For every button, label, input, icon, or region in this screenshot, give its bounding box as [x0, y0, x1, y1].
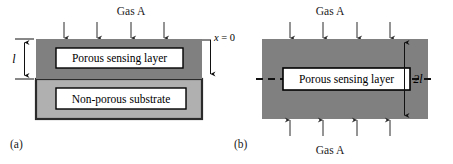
- panel-b-thickness-label: 2l: [413, 72, 423, 86]
- panel-b-sensing-label: Porous sensing layer: [299, 73, 394, 86]
- panel-a-gas-arrows-top: [64, 22, 164, 38]
- panel-b-gas-label-top: Gas A: [316, 5, 345, 17]
- figure-container: Gas A Porous sensing layer Non-porous su…: [0, 0, 453, 164]
- panel-a: Gas A Porous sensing layer Non-porous su…: [10, 5, 235, 151]
- panel-a-caption: (a): [10, 138, 23, 151]
- panel-a-substrate-label: Non-porous substrate: [72, 93, 171, 106]
- panel-a-sensing-label: Porous sensing layer: [72, 52, 167, 65]
- panel-a-axis-marker: x = 0: [202, 32, 235, 74]
- panel-a-axis-label: x = 0: [213, 32, 235, 43]
- panel-b-gas-arrows-top: [290, 22, 390, 38]
- panel-a-thickness-label: l: [12, 52, 16, 66]
- panel-b: Gas A Porous sensing layer Gas A 2l: [234, 5, 434, 156]
- panel-a-gas-label-top: Gas A: [117, 5, 146, 17]
- panel-b-gas-arrows-bottom: [290, 120, 390, 136]
- panel-b-caption: (b): [234, 138, 248, 151]
- panel-a-thickness-dimension: l: [12, 39, 34, 79]
- diagram-svg: Gas A Porous sensing layer Non-porous su…: [0, 0, 453, 164]
- panel-b-gas-label-bottom: Gas A: [316, 144, 345, 156]
